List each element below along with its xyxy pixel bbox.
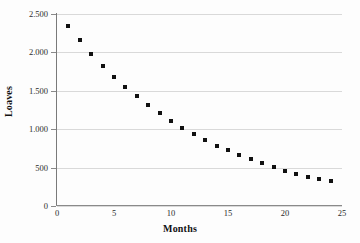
data-point xyxy=(169,119,173,123)
data-point xyxy=(215,144,219,148)
data-point xyxy=(283,169,287,173)
data-point xyxy=(123,85,127,89)
x-axis-line xyxy=(56,205,342,206)
data-point xyxy=(135,94,139,98)
y-axis-line xyxy=(56,13,57,206)
data-point xyxy=(272,165,276,169)
data-point xyxy=(89,52,93,56)
x-tick-label: 0 xyxy=(45,209,69,218)
data-point xyxy=(260,161,264,165)
gridline-y xyxy=(57,52,342,53)
chart-container: Loaves Months 05001.0001.5002.0002.50005… xyxy=(0,0,360,243)
x-tick-label: 5 xyxy=(102,209,126,218)
data-point xyxy=(226,148,230,152)
y-tick-mark xyxy=(51,91,56,92)
y-tick-label: 2.000 xyxy=(8,48,48,57)
gridline-y xyxy=(57,206,342,207)
y-tick-label: 0 xyxy=(8,202,48,211)
x-tick-label: 20 xyxy=(273,209,297,218)
x-axis-title: Months xyxy=(0,223,360,234)
gridline-y xyxy=(57,14,342,15)
y-axis-title: Loaves xyxy=(3,72,14,132)
data-point xyxy=(78,38,82,42)
y-tick-label: 2.500 xyxy=(8,10,48,19)
data-point xyxy=(66,24,70,28)
y-tick-label: 1.000 xyxy=(8,125,48,134)
data-point xyxy=(237,153,241,157)
data-point xyxy=(294,172,298,176)
data-point xyxy=(249,157,253,161)
y-tick-label: 500 xyxy=(8,164,48,173)
gridline-y xyxy=(57,91,342,92)
gridline-y xyxy=(57,129,342,130)
y-tick-mark xyxy=(51,129,56,130)
x-tick-label: 25 xyxy=(330,209,354,218)
y-tick-mark xyxy=(51,14,56,15)
data-point xyxy=(180,126,184,130)
data-point xyxy=(146,103,150,107)
y-tick-label: 1.500 xyxy=(8,87,48,96)
x-tick-label: 15 xyxy=(216,209,240,218)
y-tick-mark xyxy=(51,52,56,53)
x-tick-label: 10 xyxy=(159,209,183,218)
data-point xyxy=(317,177,321,181)
plot-area xyxy=(57,14,342,206)
data-point xyxy=(329,179,333,183)
data-point xyxy=(112,75,116,79)
data-point xyxy=(192,132,196,136)
data-point xyxy=(306,175,310,179)
data-point xyxy=(158,111,162,115)
y-tick-mark xyxy=(51,168,56,169)
y-tick-mark xyxy=(51,206,56,207)
gridline-y xyxy=(57,168,342,169)
data-point xyxy=(101,64,105,68)
data-point xyxy=(203,138,207,142)
